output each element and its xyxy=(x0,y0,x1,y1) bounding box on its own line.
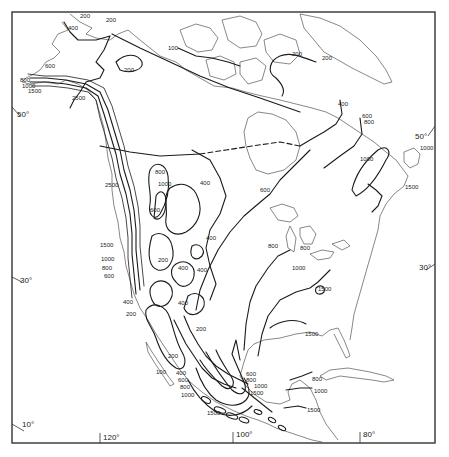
contour-label: 400 xyxy=(206,235,217,241)
contour-label: 800 xyxy=(102,265,113,271)
contour-label: 600 xyxy=(260,187,271,193)
contour-label: 200 xyxy=(322,55,333,61)
contour-label: 400 xyxy=(123,299,134,305)
contour-label: 1500 xyxy=(28,88,42,94)
contour-label: 400 xyxy=(178,300,189,306)
latitude-labels-left: 50° 30° 10° xyxy=(17,110,34,429)
contour-label: 1000 xyxy=(101,256,115,262)
precipitation-contours xyxy=(28,22,389,432)
contour-label: 200 xyxy=(106,17,117,23)
contour-label: 400 xyxy=(178,265,189,271)
lat-label-30-right: 30° xyxy=(419,263,431,272)
contour-label: 100 xyxy=(168,45,179,51)
contour-labels-caribbean: 800 1000 1500 xyxy=(307,376,328,413)
contour-label: 400 xyxy=(197,267,208,273)
contour-label: 400 xyxy=(176,370,187,376)
contour-label: 200 xyxy=(158,257,169,263)
latitude-labels-right: 50° 30° xyxy=(415,132,431,272)
contour-label: 1500 xyxy=(100,242,114,248)
lon-label-80: 80° xyxy=(363,430,375,439)
contour-label: 600 xyxy=(150,207,161,213)
lon-label-100: 100° xyxy=(236,430,253,439)
contour-label: 200 xyxy=(196,326,207,332)
contour-labels-alaska: 200 200 400 600 800 1000 1500 2500 200 xyxy=(20,13,135,101)
contour-label: 2500 xyxy=(105,182,119,188)
contour-label: 800 xyxy=(180,384,191,390)
contour-label: 400 xyxy=(68,25,79,31)
contour-label: 1500 xyxy=(250,390,264,396)
coastlines xyxy=(22,14,420,442)
lat-label-50-right: 50° xyxy=(415,132,427,141)
contour-label: 600 xyxy=(45,63,56,69)
contour-labels-arctic: 100 200 200 400 600 800 xyxy=(168,45,375,125)
longitude-labels: 120° 100° 80° xyxy=(103,430,375,442)
lat-label-30-left: 30° xyxy=(20,276,32,285)
contour-label: 800 xyxy=(364,119,375,125)
contour-label: 200 xyxy=(124,67,135,73)
contour-label: 800 xyxy=(155,169,166,175)
contour-label: 800 xyxy=(312,376,323,382)
contour-label: 200 xyxy=(126,311,137,317)
contour-label: 800 xyxy=(268,243,279,249)
contour-label: 1000 xyxy=(158,181,172,187)
lon-label-120: 120° xyxy=(103,433,120,442)
contour-label: 200 xyxy=(80,13,91,19)
contour-label: 1000 xyxy=(360,156,374,162)
contour-label: 1000 xyxy=(314,388,328,394)
contour-label: 1000 xyxy=(292,265,306,271)
contour-label: 200 xyxy=(292,51,303,57)
contour-label: 400 xyxy=(200,180,211,186)
contour-label: 200 xyxy=(168,353,179,359)
contour-label: 1500 xyxy=(405,184,419,190)
contour-label: 1000 xyxy=(420,145,434,151)
contour-label: 1500 xyxy=(305,331,319,337)
contour-label: 600 xyxy=(104,273,115,279)
contour-label: 2500 xyxy=(72,95,86,101)
contour-label: 600 xyxy=(178,377,189,383)
lat-label-50-left: 50° xyxy=(17,110,29,119)
contour-label: 400 xyxy=(338,101,349,107)
lat-label-10-left: 10° xyxy=(22,420,34,429)
contour-label: 1500 xyxy=(207,410,221,416)
contour-label: 1000 xyxy=(181,392,195,398)
contour-label: 1500 xyxy=(307,407,321,413)
contour-map: 50° 30° 10° 50° 30° 120° 100° 80° 200 20… xyxy=(0,0,449,457)
contour-label: 100 xyxy=(156,369,167,375)
contour-label: 800 xyxy=(300,245,311,251)
contour-label: 1500 xyxy=(318,286,332,292)
contour-label: 1000 xyxy=(254,383,268,389)
